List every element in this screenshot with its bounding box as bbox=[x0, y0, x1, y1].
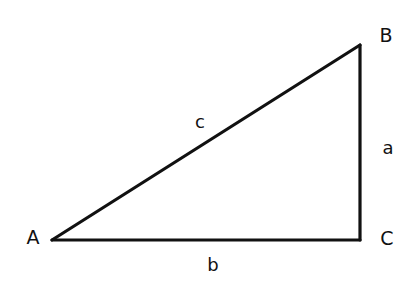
side-label-a: a bbox=[382, 139, 393, 157]
side-label-c: c bbox=[195, 113, 205, 131]
vertex-label-c: C bbox=[380, 229, 393, 248]
side-c-hypotenuse bbox=[52, 45, 360, 240]
vertex-label-b: B bbox=[379, 26, 392, 45]
right-triangle-diagram bbox=[0, 0, 418, 286]
vertex-label-a: A bbox=[27, 228, 40, 247]
side-label-b: b bbox=[207, 256, 218, 274]
